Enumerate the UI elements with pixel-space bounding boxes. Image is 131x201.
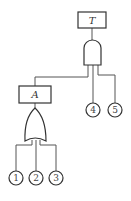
basic-event-1: 1 (9, 171, 23, 185)
intermediate-event-a: A (19, 86, 51, 103)
or-gate-icon (25, 108, 46, 141)
intermediate-event-label: A (30, 89, 38, 100)
and-gate-icon (84, 40, 101, 65)
top-event-t: T (78, 12, 106, 28)
basic-event-label: 3 (53, 173, 59, 183)
basic-event-5: 5 (108, 103, 122, 117)
connector-and-a (35, 65, 88, 86)
connector-or-1 (16, 140, 32, 171)
basic-event-label: 5 (112, 105, 118, 115)
connector-or-3 (40, 140, 56, 171)
basic-event-label: 2 (33, 173, 39, 183)
basic-event-3: 3 (49, 171, 63, 185)
basic-event-label: 1 (13, 173, 19, 183)
basic-event-2: 2 (29, 171, 43, 185)
connector-and-5 (98, 65, 115, 103)
basic-event-label: 4 (90, 105, 96, 115)
fault-tree-diagram: T A 1 2 3 4 5 (0, 0, 131, 201)
basic-event-4: 4 (86, 103, 100, 117)
